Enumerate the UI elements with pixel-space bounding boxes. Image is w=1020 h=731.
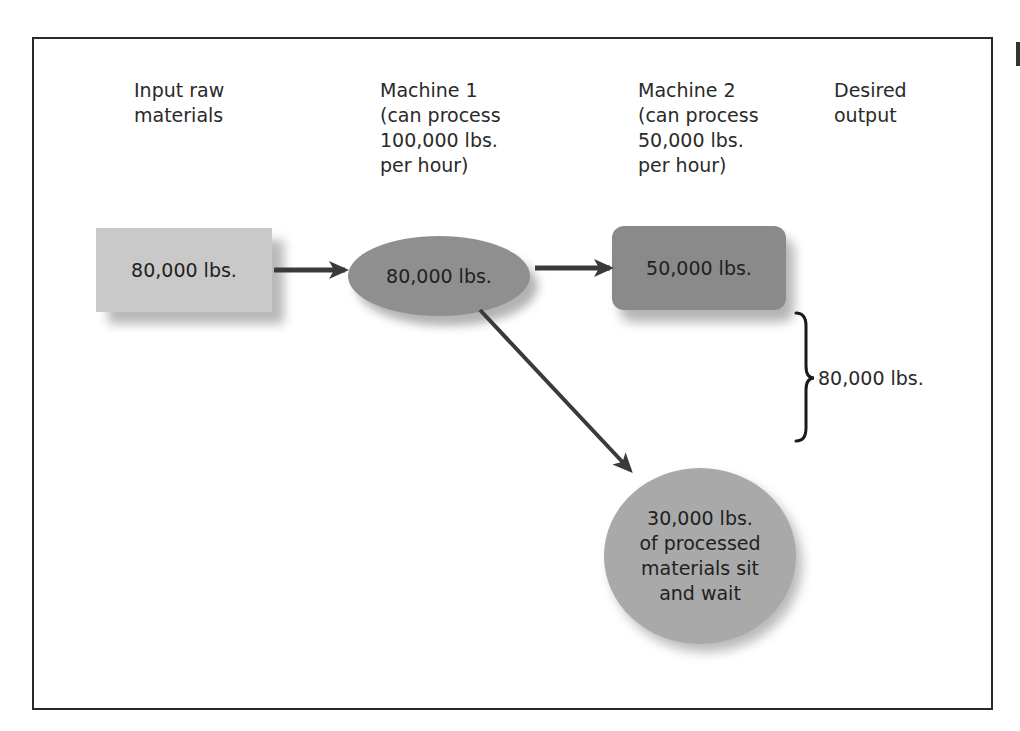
label-line: Input raw <box>134 78 224 103</box>
node-text-line: 30,000 lbs. <box>639 506 760 531</box>
column-label-output: Desired output <box>834 78 907 128</box>
node-text-line: and wait <box>639 581 760 606</box>
column-label-input: Input raw materials <box>134 78 224 128</box>
label-line: per hour) <box>638 153 759 178</box>
edge-mark <box>1016 42 1020 66</box>
node-machine-1: 80,000 lbs. <box>348 236 530 316</box>
label-line: Desired <box>834 78 907 103</box>
label-line: output <box>834 103 907 128</box>
column-label-machine2: Machine 2 (can process 50,000 lbs. per h… <box>638 78 759 178</box>
node-text-line: of processed <box>639 531 760 556</box>
label-line: per hour) <box>380 153 501 178</box>
label-line: 50,000 lbs. <box>638 128 759 153</box>
node-text: 50,000 lbs. <box>646 256 752 281</box>
label-line: 100,000 lbs. <box>380 128 501 153</box>
label-line: Machine 2 <box>638 78 759 103</box>
label-line: (can process <box>380 103 501 128</box>
column-label-machine1: Machine 1 (can process 100,000 lbs. per … <box>380 78 501 178</box>
node-text-line: materials sit <box>639 556 760 581</box>
node-waiting-inventory: 30,000 lbs. of processed materials sit a… <box>604 468 796 644</box>
node-machine-2: 50,000 lbs. <box>612 226 786 310</box>
node-input-raw-materials: 80,000 lbs. <box>96 228 272 312</box>
label-line: (can process <box>638 103 759 128</box>
label-line: materials <box>134 103 224 128</box>
node-text: 80,000 lbs. <box>131 258 237 283</box>
brace-label-total: 80,000 lbs. <box>818 366 924 391</box>
label-line: Machine 1 <box>380 78 501 103</box>
node-text: 80,000 lbs. <box>386 264 492 289</box>
